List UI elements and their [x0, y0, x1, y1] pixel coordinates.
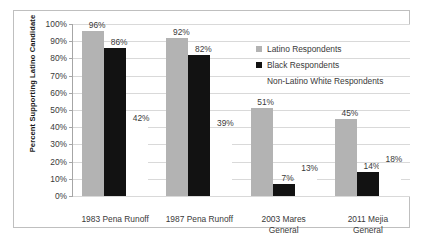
category-label-line: 2003 Mares	[262, 214, 306, 225]
bar	[379, 165, 401, 196]
y-axis-tick	[69, 76, 73, 77]
y-axis-tick	[69, 127, 73, 128]
category-label: 1983 Pena Runoff	[81, 214, 148, 225]
bar-value-label: 39%	[217, 118, 234, 128]
bar	[166, 38, 188, 196]
bar	[126, 124, 148, 196]
y-axis-tick	[69, 162, 73, 163]
y-axis-tick-label: 40%	[50, 122, 67, 132]
bar	[357, 172, 379, 196]
category-label-line: 1987 Pena Runoff	[166, 214, 233, 225]
category-label: 1987 Pena Runoff	[166, 214, 233, 225]
bar	[188, 55, 210, 196]
y-axis-tick	[69, 41, 73, 42]
y-axis-tick-label: 70%	[50, 71, 67, 81]
y-axis-tick-label: 10%	[50, 174, 67, 184]
y-axis-tick-label: 90%	[50, 36, 67, 46]
bar	[273, 184, 295, 196]
legend-item[interactable]: Black Respondents	[256, 57, 383, 73]
y-axis-tick	[69, 93, 73, 94]
bar-group: 92%82%39%	[166, 24, 232, 196]
bar	[82, 31, 104, 196]
y-axis-title: Percent Supporting Latino Candidate	[28, 4, 37, 164]
category-label-line: General	[348, 225, 388, 236]
y-axis-tick	[69, 196, 73, 197]
y-axis-tick-label: 80%	[50, 53, 67, 63]
y-axis-tick-label: 0%	[55, 191, 67, 201]
bar-value-label: 14%	[363, 161, 380, 171]
chart-legend: Latino RespondentsBlack RespondentsNon-L…	[256, 41, 383, 89]
bar-value-label: 42%	[133, 113, 150, 123]
y-axis-tick	[69, 24, 73, 25]
bar-value-label: 82%	[195, 44, 212, 54]
bar-value-label: 86%	[111, 37, 128, 47]
bar-value-label: 7%	[282, 173, 294, 183]
legend-item[interactable]: Latino Respondents	[256, 41, 383, 57]
gridline	[73, 196, 410, 197]
y-axis-tick-label: 60%	[50, 88, 67, 98]
bar-group: 96%86%42%	[82, 24, 148, 196]
category-label: 2011 MejiaGeneral	[348, 214, 388, 236]
legend-swatch-icon	[256, 62, 262, 68]
bar	[251, 108, 273, 196]
legend-label: Latino Respondents	[267, 44, 342, 54]
category-label-line: General	[262, 225, 306, 236]
bar	[335, 119, 357, 196]
bar-value-label: 96%	[89, 20, 106, 30]
bar-value-label: 92%	[173, 27, 190, 37]
bar-value-label: 18%	[385, 154, 402, 164]
bar	[295, 174, 317, 196]
y-axis-tick-label: 50%	[50, 105, 67, 115]
chart-figure: Percent Supporting Latino Candidate 0%10…	[13, 10, 410, 228]
legend-label: Black Respondents	[267, 60, 339, 70]
y-axis-tick-label: 20%	[50, 157, 67, 167]
bar-value-label: 45%	[341, 108, 358, 118]
legend-swatch-icon	[256, 78, 262, 84]
y-axis-tick	[69, 144, 73, 145]
category-label-line: 2011 Mejia	[348, 214, 388, 225]
legend-swatch-icon	[256, 46, 262, 52]
y-axis-tick-label: 30%	[50, 139, 67, 149]
category-label-line: 1983 Pena Runoff	[81, 214, 148, 225]
y-axis-tick-label: 100%	[46, 19, 67, 29]
legend-item[interactable]: Non-Latino White Respondents	[256, 73, 383, 89]
bar-value-label: 51%	[257, 97, 274, 107]
legend-label: Non-Latino White Respondents	[267, 76, 383, 86]
bar-value-label: 13%	[301, 163, 318, 173]
y-axis-tick	[69, 179, 73, 180]
category-label: 2003 MaresGeneral	[262, 214, 306, 236]
bar	[104, 48, 126, 196]
y-axis-tick	[69, 58, 73, 59]
bar	[210, 129, 232, 196]
y-axis-tick	[69, 110, 73, 111]
